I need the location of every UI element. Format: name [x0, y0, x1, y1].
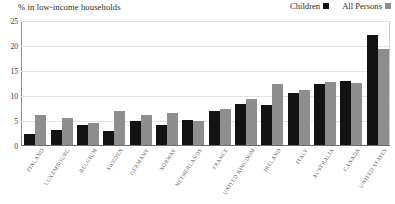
bar-group [312, 21, 338, 145]
bar-all-persons[interactable] [299, 90, 310, 145]
x-axis-label: GERMANY [129, 147, 151, 176]
x-axis-label: IRELAND [262, 147, 282, 173]
x-axis-label: BELGIUM [77, 147, 97, 174]
y-axis-tick-label: 20 [10, 42, 18, 51]
bar-all-persons[interactable] [246, 99, 257, 146]
bar-children[interactable] [182, 120, 193, 145]
legend-swatch-all-persons-icon [385, 3, 391, 9]
x-axis-label: CANADA [342, 147, 361, 172]
x-axis-label: LUXEMBOURG [43, 147, 71, 186]
x-axis-label: FINLAND [25, 147, 45, 173]
bar-children[interactable] [340, 81, 351, 145]
chart-legend: Children All Persons [290, 2, 391, 11]
bar-group [154, 21, 180, 145]
bar-all-persons[interactable] [88, 123, 99, 145]
bar-group [259, 21, 285, 145]
bar-group [233, 21, 259, 145]
bar-children[interactable] [209, 111, 220, 145]
bar-all-persons[interactable] [378, 49, 389, 146]
bar-children[interactable] [156, 125, 167, 145]
x-axis-label: FRANCE [211, 147, 229, 171]
bar-all-persons[interactable] [220, 109, 231, 146]
bar-group [180, 21, 206, 145]
bar-all-persons[interactable] [114, 111, 125, 145]
bar-group [127, 21, 153, 145]
bar-children[interactable] [314, 84, 325, 145]
legend-entry-children: Children [290, 2, 329, 11]
legend-entry-all-persons: All Persons [342, 2, 391, 11]
legend-label-all-persons: All Persons [342, 2, 382, 11]
x-axis-label: NETHERLANDS [174, 147, 203, 188]
bar-all-persons[interactable] [351, 83, 362, 146]
bar-children[interactable] [288, 93, 299, 146]
bar-children[interactable] [77, 125, 88, 145]
bar-children[interactable] [51, 130, 62, 145]
bar-all-persons[interactable] [193, 121, 204, 145]
y-axis-tick-label: 5 [14, 117, 18, 126]
bar-group [22, 21, 48, 145]
y-axis-tick-label: 25 [10, 17, 18, 26]
y-axis-tick-label: 15 [10, 67, 18, 76]
legend-label-children: Children [290, 2, 320, 11]
x-axis-line [21, 145, 390, 146]
chart-title: % in low-income households [18, 2, 121, 12]
bar-children[interactable] [130, 121, 141, 145]
bar-group [101, 21, 127, 145]
bar-all-persons[interactable] [141, 115, 152, 145]
x-axis-label: UNITED STATES [357, 147, 387, 189]
bars-layer [22, 21, 389, 145]
y-axis-tick-label: 10 [10, 92, 18, 101]
bar-all-persons[interactable] [35, 115, 46, 145]
bar-all-persons[interactable] [272, 84, 283, 146]
bar-group [48, 21, 74, 145]
bar-children[interactable] [24, 134, 35, 145]
bar-all-persons[interactable] [62, 118, 73, 146]
x-axis-label: UNITED KINGDOM [221, 147, 256, 196]
plot-area: 0510152025 [21, 21, 390, 146]
x-axis-category-labels: FINLANDLUXEMBOURGBELGIUMSWEDENGERMANYNOR… [21, 147, 390, 204]
bar-children[interactable] [261, 105, 272, 145]
bar-all-persons[interactable] [167, 113, 178, 145]
bar-all-persons[interactable] [325, 82, 336, 146]
x-axis-label: ITALY [294, 147, 309, 165]
bar-group [338, 21, 364, 145]
x-axis-label: NORWAY [158, 147, 177, 172]
legend-swatch-children-icon [323, 3, 329, 9]
bar-group [75, 21, 101, 145]
x-axis-label: SWEDEN [105, 147, 124, 172]
low-income-households-bar-chart: % in low-income households Children All … [0, 0, 395, 204]
bar-children[interactable] [235, 104, 246, 146]
bar-group [207, 21, 233, 145]
x-axis-label: AUSTRALIA [311, 147, 335, 180]
y-axis-tick-label: 0 [14, 142, 18, 151]
bar-children[interactable] [103, 131, 114, 145]
bar-group [286, 21, 312, 145]
bar-group [365, 21, 391, 145]
bar-children[interactable] [367, 35, 378, 145]
